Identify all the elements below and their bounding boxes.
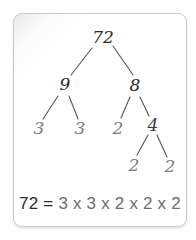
tree-edge-n72-n9: [71, 48, 92, 75]
tree-node-n3a: 3: [34, 118, 45, 138]
tree-edge-n8-n4: [140, 97, 149, 116]
tree-node-n72: 72: [92, 27, 114, 47]
tree-edge-n8-n2a: [121, 97, 130, 118]
tree-edge-n9-n3a: [43, 96, 58, 119]
tree-edge-n4-n2b: [137, 135, 148, 155]
tree-edge-n4-n2c: [157, 135, 167, 157]
tree-node-n2b: 2: [128, 155, 140, 175]
equation-lhs: 72 =: [19, 194, 53, 213]
tree-node-n8: 8: [130, 75, 141, 95]
tree-node-n3b: 3: [75, 118, 86, 138]
tree-node-n9: 9: [60, 74, 71, 94]
tree-node-n4: 4: [147, 115, 159, 135]
tree-edges: [43, 46, 167, 157]
tree-node-n2c: 2: [164, 156, 176, 176]
equation-rhs: 3 x 3 x 2 x 2 x 2: [53, 194, 180, 213]
factorization-equation: 72 = 3 x 3 x 2 x 2 x 2: [13, 194, 187, 214]
tree-edge-n72-n8: [113, 46, 133, 75]
tree-edge-n9-n3b: [69, 96, 78, 119]
tree-node-n2a: 2: [112, 118, 124, 138]
